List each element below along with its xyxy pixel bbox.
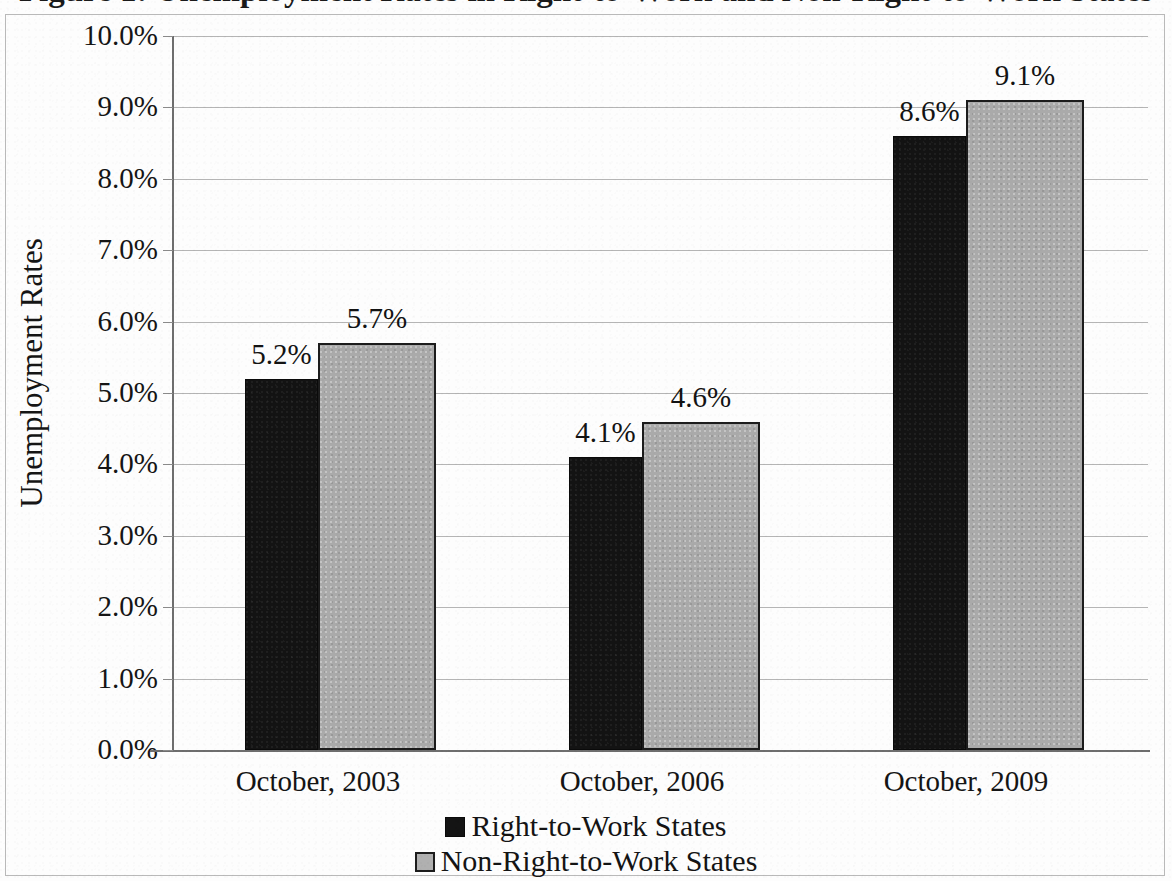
y-axis-tick-label: 7.0% <box>48 235 158 264</box>
bar-value-label: 9.1% <box>951 60 1099 90</box>
y-axis-tick-label: 5.0% <box>48 378 158 407</box>
bar <box>893 136 966 750</box>
y-axis-tick <box>163 536 173 537</box>
legend-label: Right-to-Work States <box>471 810 726 842</box>
y-axis-tick-label: 2.0% <box>48 592 158 621</box>
y-axis-tick <box>163 607 173 608</box>
chart-page: Figure 1: Unemployment Rates in Right-to… <box>0 0 1172 881</box>
x-axis-category-label: October, 2003 <box>158 765 478 797</box>
y-axis-tick <box>163 393 173 394</box>
bar <box>642 422 760 750</box>
y-axis-tick <box>163 322 173 323</box>
x-axis-line <box>150 750 1150 752</box>
bar-value-label: 8.6% <box>878 96 981 126</box>
bar-value-label: 4.1% <box>554 417 657 447</box>
legend-label: Non-Right-to-Work States <box>441 845 758 877</box>
chart-legend: Right-to-Work States Non-Right-to-Work S… <box>0 808 1172 878</box>
y-axis-tick-label: 3.0% <box>48 521 158 550</box>
legend-swatch-black-square-icon <box>445 817 465 837</box>
chart-title-clipped: Figure 1: Unemployment Rates in Right-to… <box>0 0 1172 16</box>
y-axis-tick-label: 8.0% <box>48 164 158 193</box>
y-axis-tick-label: 4.0% <box>48 449 158 478</box>
y-axis-tick-label: 0.0% <box>48 735 158 764</box>
y-axis-title: Unemployment Rates <box>14 123 50 623</box>
bar <box>569 457 642 750</box>
y-axis-tick <box>163 179 173 180</box>
bar-value-label: 4.6% <box>627 382 775 412</box>
legend-item-right-to-work[interactable]: Right-to-Work States <box>0 808 1172 843</box>
y-axis-tick-label: 10.0% <box>48 21 158 50</box>
bar <box>245 379 318 750</box>
x-axis-category-label: October, 2006 <box>482 765 802 797</box>
bar <box>966 100 1084 750</box>
bar-value-label: 5.7% <box>303 303 451 333</box>
legend-item-non-right-to-work[interactable]: Non-Right-to-Work States <box>0 843 1172 878</box>
y-axis-tick-label: 9.0% <box>48 92 158 121</box>
y-axis-tick <box>163 750 173 751</box>
chart-title: Figure 1: Unemployment Rates in Right-to… <box>0 0 1172 10</box>
y-axis-tick <box>163 36 173 37</box>
y-axis-tick-label: 1.0% <box>48 664 158 693</box>
gridline <box>172 36 1148 37</box>
y-axis-tick <box>163 679 173 680</box>
legend-swatch-gray-square-icon <box>415 852 435 872</box>
y-axis-tick <box>163 464 173 465</box>
y-axis-tick-label: 6.0% <box>48 307 158 336</box>
y-axis-tick <box>163 107 173 108</box>
bar-value-label: 5.2% <box>230 339 333 369</box>
bar <box>318 343 436 750</box>
y-axis-tick <box>163 250 173 251</box>
x-axis-category-label: October, 2009 <box>806 765 1126 797</box>
